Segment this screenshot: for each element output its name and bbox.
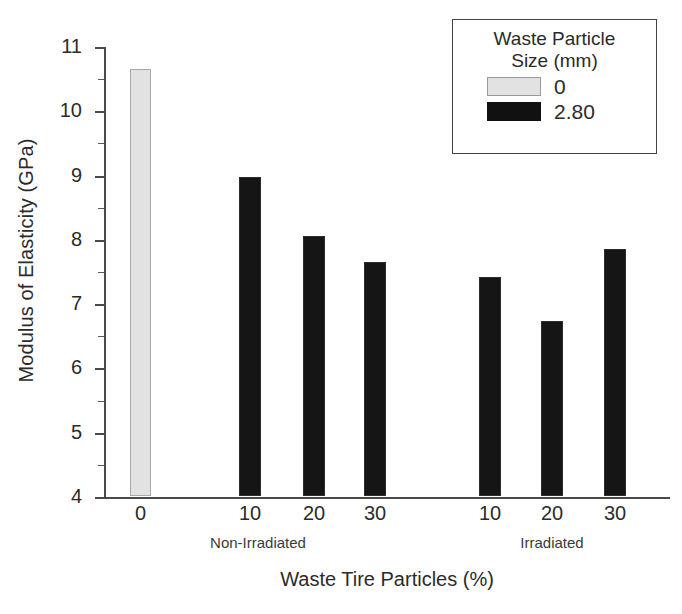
- legend-entry-label: 0: [554, 76, 566, 97]
- legend-entries: 02.80: [463, 76, 646, 122]
- legend-entry: 0: [463, 76, 646, 97]
- chart-legend: Waste Particle Size (mm) 02.80: [452, 19, 657, 154]
- y-tick-minor: [98, 401, 104, 402]
- y-tick-label: 6: [71, 356, 82, 379]
- x-tick-label: 10: [239, 502, 261, 525]
- x-tick-label: 0: [135, 502, 146, 525]
- x-tick-label: 30: [604, 502, 626, 525]
- legend-title: Waste Particle Size (mm): [463, 28, 646, 72]
- x-tick-label: 20: [303, 502, 325, 525]
- y-tick-label: 8: [71, 228, 82, 251]
- y-tick-minor: [98, 272, 104, 273]
- y-tick-major: 5: [95, 433, 104, 435]
- y-tick-label: 9: [71, 164, 82, 187]
- x-axis-title: Waste Tire Particles (%): [104, 568, 670, 591]
- x-tick-label: 20: [541, 502, 563, 525]
- y-tick-major: 6: [95, 368, 104, 370]
- y-tick-label: 10: [60, 99, 82, 122]
- y-tick-major: 11: [95, 47, 104, 49]
- bar: [364, 262, 386, 496]
- y-tick-label: 11: [61, 35, 82, 58]
- y-tick-minor: [98, 465, 104, 466]
- y-axis-line: [104, 47, 106, 499]
- x-tick-label: 10: [479, 502, 501, 525]
- y-tick-minor: [98, 336, 104, 337]
- y-tick-label: 4: [71, 485, 82, 508]
- legend-entry-label: 2.80: [554, 101, 595, 122]
- x-axis-line: [104, 497, 670, 499]
- legend-title-line-1: Waste Particle: [463, 28, 646, 50]
- y-tick-major: 10: [95, 111, 104, 113]
- bar: [604, 249, 626, 496]
- legend-title-line-2: Size (mm): [463, 50, 646, 72]
- x-group-label: Irradiated: [520, 534, 583, 551]
- y-tick-minor: [98, 79, 104, 80]
- y-tick-minor: [98, 143, 104, 144]
- x-tick-label: 30: [364, 502, 386, 525]
- y-axis-title: Modulus of Elasticity (GPa): [0, 0, 54, 520]
- bar: [541, 321, 563, 496]
- y-tick-major: 9: [95, 176, 104, 178]
- y-tick-major: 7: [95, 304, 104, 306]
- bar: [130, 69, 151, 497]
- bar: [303, 236, 325, 496]
- bar: [239, 177, 261, 496]
- y-axis-title-text: Modulus of Elasticity (GPa): [16, 138, 39, 382]
- y-tick-label: 7: [71, 292, 82, 315]
- y-tick-minor: [98, 208, 104, 209]
- x-group-label: Non-Irradiated: [210, 534, 306, 551]
- legend-swatch: [487, 77, 541, 96]
- bar-chart-figure: Modulus of Elasticity (GPa) 4567891011 0…: [0, 0, 682, 614]
- y-tick-label: 5: [71, 421, 82, 444]
- legend-swatch: [487, 102, 541, 121]
- legend-entry: 2.80: [463, 101, 646, 122]
- y-tick-major: 4: [95, 497, 104, 499]
- bar: [479, 277, 501, 496]
- y-tick-major: 8: [95, 240, 104, 242]
